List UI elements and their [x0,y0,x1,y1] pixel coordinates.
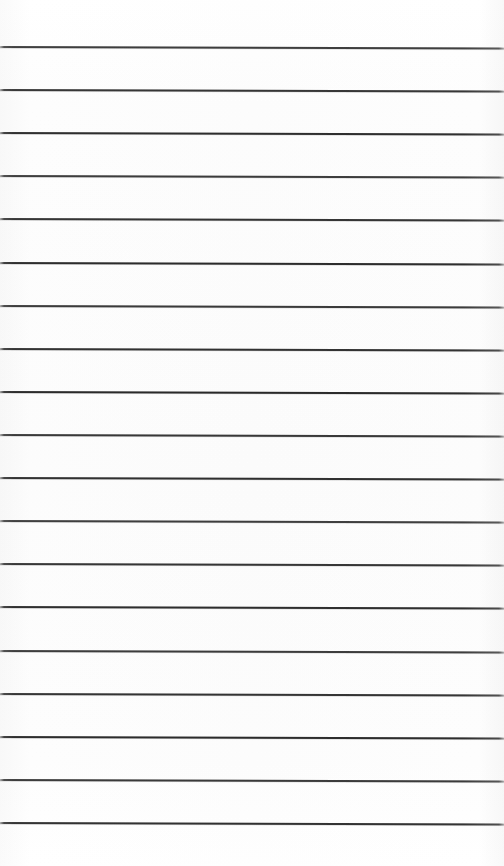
rule-line [0,46,504,50]
rule-line [0,650,504,654]
rule-line [0,348,504,352]
rule-line [0,132,504,136]
rule-line [0,477,504,481]
rule-line [0,693,504,697]
rule-line [0,305,504,309]
scanned-page [0,0,504,866]
rule-line [0,779,504,783]
rule-line [0,822,504,826]
rule-line [0,262,504,266]
rule-line [0,606,504,610]
rule-line [0,218,504,222]
rule-line [0,434,504,438]
rule-line [0,736,504,740]
rule-line [0,89,504,93]
rule-line [0,391,504,395]
rule-line [0,563,504,567]
rule-line [0,520,504,524]
rule-line [0,175,504,179]
ruled-lines-group [0,0,504,866]
